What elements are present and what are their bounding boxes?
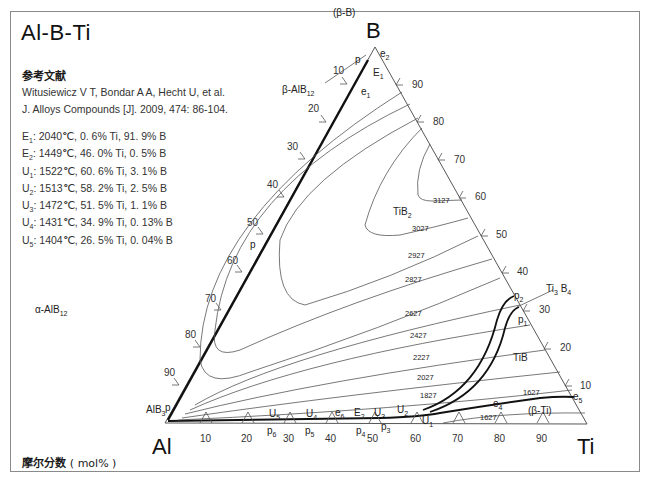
svg-text:50: 50 — [496, 229, 508, 240]
svg-text:p4: p4 — [356, 425, 366, 438]
svg-text:70: 70 — [205, 293, 217, 304]
svg-text:2427: 2427 — [410, 331, 427, 340]
svg-text:3027: 3027 — [412, 224, 429, 233]
svg-text:10: 10 — [580, 380, 592, 391]
svg-text:60: 60 — [475, 191, 487, 202]
svg-text:E1: E1 — [373, 67, 384, 80]
svg-text:U1: U1 — [422, 415, 433, 428]
svg-text:20: 20 — [560, 342, 572, 353]
svg-text:2827: 2827 — [405, 275, 422, 284]
svg-text:20: 20 — [241, 433, 253, 444]
vertex-label-al: Al — [152, 434, 172, 459]
svg-text:e4: e4 — [493, 398, 503, 411]
svg-text:2627: 2627 — [405, 309, 422, 318]
svg-text:70: 70 — [454, 154, 466, 165]
svg-text:40: 40 — [325, 433, 337, 444]
svg-text:80: 80 — [433, 116, 445, 127]
svg-text:1627: 1627 — [523, 388, 540, 397]
svg-text:50: 50 — [247, 217, 259, 228]
svg-text:p2: p2 — [514, 290, 524, 303]
svg-text:p6: p6 — [267, 425, 277, 438]
svg-text:2227: 2227 — [413, 353, 430, 362]
svg-text:1827: 1827 — [420, 391, 437, 400]
ternary-diagram: 10 20 30 40 50 60 70 80 90 10 20 30 40 5… — [0, 0, 651, 487]
svg-text:70: 70 — [452, 433, 464, 444]
phase-label-beta-alb12: β-AlB12 — [282, 84, 315, 97]
svg-text:p5: p5 — [305, 425, 315, 438]
left-axis-labels: 10 20 30 40 50 60 70 80 90 — [164, 65, 345, 378]
phase-label-tib: TiB — [513, 352, 528, 363]
svg-text:30: 30 — [287, 141, 299, 152]
vertex-label-ti: Ti — [577, 434, 595, 459]
svg-text:80: 80 — [494, 433, 506, 444]
svg-text:80: 80 — [185, 329, 197, 340]
svg-text:90: 90 — [536, 433, 548, 444]
phase-label-alb3: AlB3 — [146, 404, 166, 417]
svg-text:1627: 1627 — [480, 413, 497, 422]
svg-text:60: 60 — [410, 433, 422, 444]
svg-text:30: 30 — [283, 433, 295, 444]
phase-labels: (β-B) β-AlB12 α-AlB12 AlB3 TiB2 Ti3 B4 T… — [35, 7, 571, 417]
phase-label-alpha-alb12: α-AlB12 — [35, 304, 68, 317]
triangle-outline — [165, 47, 587, 424]
svg-text:2027: 2027 — [417, 373, 434, 382]
vertex-label-b: B — [366, 18, 381, 43]
invariant-point-labels: p e2 E1 e1 p p p2 p1 e4 e5 U5 U4 e6 E2 U… — [165, 48, 583, 438]
phase-label-tib2: TiB2 — [393, 206, 412, 219]
svg-text:p: p — [165, 402, 171, 413]
bottom-axis-labels: 10 20 30 40 50 60 70 80 90 — [200, 433, 548, 444]
peritectic-curves — [423, 296, 519, 412]
svg-text:30: 30 — [539, 304, 551, 315]
svg-text:p: p — [355, 54, 361, 65]
svg-text:40: 40 — [517, 266, 529, 277]
phase-label-ti3b4: Ti3 B4 — [546, 283, 571, 296]
isotherm-contours — [178, 92, 585, 423]
svg-text:10: 10 — [200, 433, 212, 444]
svg-text:50: 50 — [367, 433, 379, 444]
phase-label-beta-b: (β-B) — [333, 7, 355, 18]
svg-text:e1: e1 — [361, 86, 371, 99]
left-axis-ticks — [172, 77, 347, 385]
svg-text:90: 90 — [164, 367, 176, 378]
right-axis-labels: 90 80 70 60 50 40 30 20 10 — [412, 79, 592, 391]
svg-text:p3: p3 — [381, 421, 391, 434]
svg-text:20: 20 — [308, 103, 320, 114]
svg-text:3127: 3127 — [433, 196, 450, 205]
svg-text:40: 40 — [267, 179, 279, 190]
svg-text:90: 90 — [412, 79, 424, 90]
phase-label-beta-ti: (β-Ti) — [528, 405, 552, 416]
svg-text:2927: 2927 — [408, 251, 425, 260]
svg-text:p: p — [250, 239, 256, 250]
